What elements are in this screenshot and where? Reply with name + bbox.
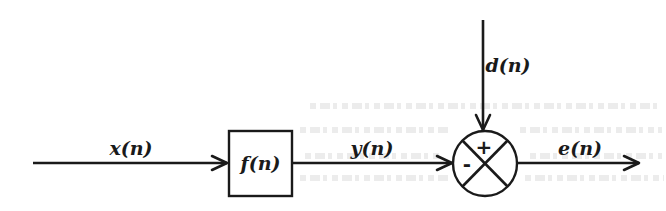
filter-block: f(n) [229,131,292,196]
plus-sign: + [476,135,493,159]
label-x-n: x(n) [108,137,152,159]
label-e-n: e(n) [558,137,602,159]
label-d-n: d(n) [485,54,530,76]
input-signal-x: x(n) [33,137,227,170]
label-y-n: y(n) [350,137,394,159]
filter-block-label: f(n) [239,152,281,174]
desired-signal-d: d(n) [476,20,531,130]
block-diagram: x(n) f(n) y(n) d(n) + - e(n) [0,0,666,211]
minus-sign: - [463,152,471,176]
summing-junction: + - [453,131,517,196]
